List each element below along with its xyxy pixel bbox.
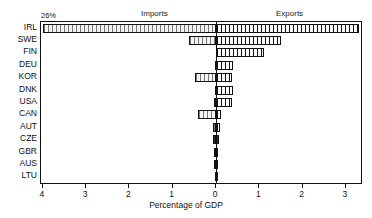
bar-exports [216,86,233,95]
bar-exports [216,48,264,57]
bar-row [41,146,361,158]
x-tick-mark [302,184,303,188]
chart-root: Imports Exports 26% IRLSWEFINDEUKORDNKUS… [0,0,372,218]
x-tick-mark [258,184,259,188]
bar-row [41,22,361,34]
bar-row [41,84,361,96]
plot-area [40,21,362,184]
x-tick-label: 1 [162,189,182,199]
bar-exports [216,160,218,169]
bar-exports [216,135,219,144]
x-tick-mark [128,184,129,188]
exports-column-header: Exports [276,9,303,18]
bar-exports [216,73,232,82]
bar-row [41,34,361,46]
category-label-gbr: GBR [0,146,37,156]
bar-exports [216,123,220,132]
x-tick-mark [215,184,216,188]
bar-row [41,171,361,183]
x-axis-title: Percentage of GDP [0,200,372,210]
bar-exports [216,110,221,119]
bar-exports [216,172,218,181]
x-tick-mark [172,184,173,188]
bar-exports [216,148,218,157]
x-tick-mark [345,184,346,188]
bar-imports [189,36,216,45]
bar-exports [216,24,359,33]
imports-column-header: Imports [141,9,168,18]
category-label-aut: AUT [0,121,37,131]
bar-imports [195,73,216,82]
bar-row [41,109,361,121]
bar-row [41,133,361,145]
bar-row [41,121,361,133]
category-label-aus: AUS [0,158,37,168]
category-label-usa: USA [0,96,37,106]
x-tick-label: 1 [248,189,268,199]
bar-imports-truncated [43,24,216,33]
category-label-fin: FIN [0,46,37,56]
category-label-can: CAN [0,108,37,118]
category-label-ltu: LTU [0,170,37,180]
bar-row [41,96,361,108]
category-label-kor: KOR [0,71,37,81]
bar-row [41,47,361,59]
x-tick-label: 0 [205,189,225,199]
bar-imports [198,110,216,119]
x-tick-label: 3 [75,189,95,199]
x-tick-label: 2 [292,189,312,199]
x-tick-label: 3 [335,189,355,199]
bar-row [41,59,361,71]
bar-row [41,158,361,170]
bar-exports [216,36,281,45]
x-tick-label: 2 [118,189,138,199]
category-label-irl: IRL [0,22,37,32]
category-label-swe: SWE [0,34,37,44]
x-tick-mark [42,184,43,188]
category-label-dnk: DNK [0,84,37,94]
category-label-deu: DEU [0,59,37,69]
bar-row [41,72,361,84]
x-tick-label: 4 [32,189,52,199]
bar-exports [216,61,233,70]
bar-exports [216,98,232,107]
x-tick-mark [85,184,86,188]
break-annotation-label: 26% [41,11,56,20]
category-label-cze: CZE [0,133,37,143]
